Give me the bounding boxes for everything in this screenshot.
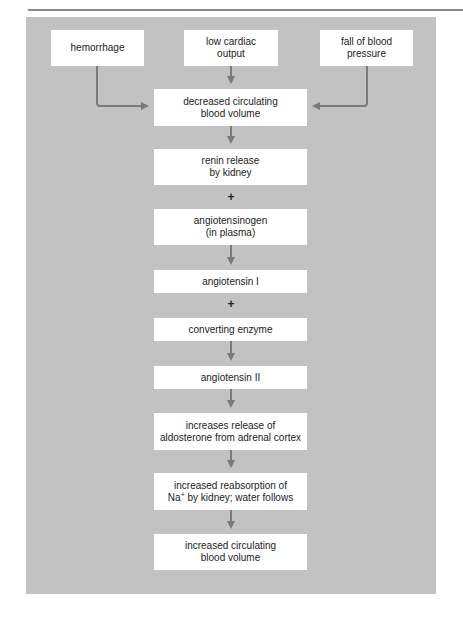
box-increased-volume: increased circulating blood volume xyxy=(154,534,307,570)
box-label: pressure xyxy=(347,48,386,60)
box-label-line2: Na+ by kidney; water follows xyxy=(168,492,293,504)
box-low-cardiac-output: low cardiac output xyxy=(184,30,278,66)
box-angiotensinogen: angiotensinogen (in plasma) xyxy=(154,209,307,245)
box-label: by kidney xyxy=(209,167,251,179)
box-label: blood volume xyxy=(201,108,260,120)
box-renin: renin release by kidney xyxy=(154,149,307,185)
fall-of-blood-pressure-arrow xyxy=(314,66,367,106)
box-label: renin release xyxy=(202,155,260,167)
box-label: by kidney; water follows xyxy=(188,492,294,503)
box-label: aldosterone from adrenal cortex xyxy=(160,432,301,444)
box-hemorrhage: hemorrhage xyxy=(51,30,144,66)
box-fall-of-blood-pressure: fall of blood pressure xyxy=(320,30,413,66)
hemorrhage-arrow xyxy=(97,66,147,106)
box-label: hemorrhage xyxy=(71,42,125,54)
box-label: output xyxy=(217,48,245,60)
box-label: (in plasma) xyxy=(206,227,255,239)
box-aldosterone: increases release of aldosterone from ad… xyxy=(154,413,307,450)
box-angiotensin-2: angiotensin II xyxy=(154,366,307,389)
box-label: blood volume xyxy=(201,552,260,564)
box-label: angiotensin II xyxy=(201,372,261,384)
box-label: converting enzyme xyxy=(189,324,273,336)
box-label: increases release of xyxy=(186,420,276,432)
plus-sign: + xyxy=(221,298,241,310)
plus-sign: + xyxy=(221,191,241,203)
sodium-symbol: Na xyxy=(168,492,181,503)
box-label: fall of blood xyxy=(341,36,392,48)
box-label: low cardiac xyxy=(206,36,256,48)
box-angiotensin-1: angiotensin I xyxy=(154,270,307,293)
box-reabsorption: increased reabsorption of Na+ by kidney;… xyxy=(154,473,307,510)
box-decreased-volume: decreased circulating blood volume xyxy=(154,89,307,126)
box-label: angiotensin I xyxy=(202,276,259,288)
box-label: angiotensinogen xyxy=(194,215,267,227)
box-label: decreased circulating xyxy=(183,96,278,108)
box-converting-enzyme: converting enzyme xyxy=(154,318,307,341)
box-label: increased reabsorption of xyxy=(174,480,287,492)
box-label: increased circulating xyxy=(185,540,276,552)
sodium-charge: + xyxy=(181,490,185,497)
